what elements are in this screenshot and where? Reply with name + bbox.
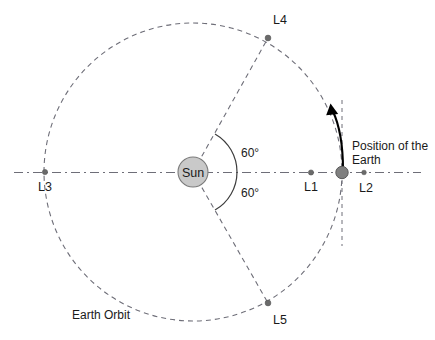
lagrange-point-marker-l1 xyxy=(308,170,313,175)
earth-motion-arrow-shaft xyxy=(333,111,344,171)
lagrange-point-label-l4: L4 xyxy=(273,13,287,27)
lagrange-point-marker-l2 xyxy=(362,170,367,175)
earth-motion-arrow-head xyxy=(326,104,338,116)
angle-label-lower: 60° xyxy=(241,186,259,200)
lagrange-point-label-l5: L5 xyxy=(273,313,287,327)
angle-arc-upper xyxy=(215,134,237,172)
lagrange-point-marker-l4 xyxy=(265,35,271,41)
lagrange-point-label-l1: L1 xyxy=(304,180,318,194)
sun-label: Sun xyxy=(182,166,204,180)
earth-position-label-line2: Earth xyxy=(352,153,381,167)
earth-orbit-label: Earth Orbit xyxy=(72,308,131,322)
angle-arc-lower xyxy=(215,172,237,210)
diagram-canvas: Sun L1 L2 L3 L4 L5 60° 60° Position of t… xyxy=(0,0,435,340)
lagrange-point-marker-l3 xyxy=(42,169,47,174)
angle-label-upper: 60° xyxy=(241,146,259,160)
lagrange-point-label-l3: L3 xyxy=(38,180,52,194)
earth-position-label-line1: Position of the xyxy=(352,139,428,153)
earth-body xyxy=(336,166,348,178)
lagrange-point-label-l2: L2 xyxy=(359,181,373,195)
lagrange-point-marker-l5 xyxy=(265,300,271,306)
lagrange-points-diagram: Sun L1 L2 L3 L4 L5 60° 60° Position of t… xyxy=(0,0,435,340)
